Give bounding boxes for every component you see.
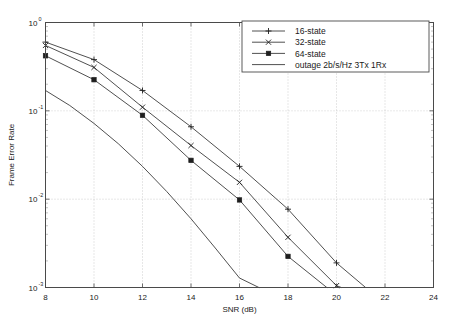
marker-square xyxy=(140,113,144,117)
marker-x xyxy=(140,105,145,110)
series-outage-2b-s-hz-3tx-1rx xyxy=(46,90,259,287)
marker-x xyxy=(237,180,242,185)
chart-figure: 8101214161820222410010-110-210-3SNR (dB)… xyxy=(0,0,449,315)
series-16-state xyxy=(43,39,366,287)
legend-label-2: 64-state xyxy=(295,49,326,59)
series-path xyxy=(46,90,259,287)
x-tick-label-14: 14 xyxy=(187,293,196,302)
marker-square xyxy=(92,78,96,82)
marker-square xyxy=(266,51,270,55)
y-tick-label: 10 xyxy=(29,284,38,293)
chart-legend: 16-state32-state64-stateoutage 2b/s/Hz 3… xyxy=(242,21,429,72)
marker-plus xyxy=(91,57,97,63)
y-tick-label-exponent: -3 xyxy=(39,281,44,287)
data-series-layer xyxy=(43,39,366,288)
marker-square xyxy=(189,158,193,162)
x-tick-label-8: 8 xyxy=(43,293,48,302)
series-path xyxy=(46,56,327,288)
x-tick-label-22: 22 xyxy=(381,293,390,302)
x-axis-title: SNR (dB) xyxy=(222,305,257,314)
y-tick-label: 10 xyxy=(29,19,38,28)
x-tick-label-20: 20 xyxy=(332,293,341,302)
legend-label-3: outage 2b/s/Hz 3Tx 1Rx xyxy=(295,60,387,70)
marker-square xyxy=(286,254,290,258)
y-tick-label: 10 xyxy=(29,195,38,204)
legend-label-1: 32-state xyxy=(295,37,326,47)
x-tick-label-10: 10 xyxy=(90,293,99,302)
series-path xyxy=(46,45,342,287)
y-axis-title: Frame Error Rate xyxy=(7,123,16,186)
legend-label-0: 16-state xyxy=(295,26,326,36)
x-tick-label-12: 12 xyxy=(138,293,147,302)
marker-x xyxy=(91,65,96,70)
y-tick-label-exponent: -2 xyxy=(39,192,44,198)
x-tick-label-16: 16 xyxy=(235,293,244,302)
x-tick-label-18: 18 xyxy=(284,293,293,302)
series-64-state xyxy=(43,54,327,288)
marker-x xyxy=(188,143,193,148)
chart-svg: 8101214161820222410010-110-210-3SNR (dB)… xyxy=(0,0,449,315)
y-tick-label-exponent: 0 xyxy=(39,16,42,22)
marker-square xyxy=(237,198,241,202)
x-tick-label-24: 24 xyxy=(429,293,438,302)
y-tick-label: 10 xyxy=(29,107,38,116)
y-tick-label-exponent: -1 xyxy=(39,104,44,110)
series-32-state xyxy=(43,43,341,288)
